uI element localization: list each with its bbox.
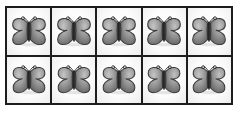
grid-row (7, 55, 231, 104)
butterfly-icon (146, 14, 182, 48)
grid-cell-r1c1 (7, 8, 50, 55)
butterfly-icon (56, 14, 92, 48)
grid-cell-r2c3 (95, 57, 140, 104)
butterfly-icon (101, 14, 137, 48)
butterfly-grid-figure (0, 0, 243, 115)
grid-cell-r2c1 (7, 57, 50, 104)
grid-cell-r2c2 (50, 57, 95, 104)
butterfly-icon (101, 63, 137, 96)
grid-cell-r1c4 (141, 8, 186, 55)
grid-frame (5, 6, 233, 105)
grid-cell-r2c5 (186, 57, 231, 104)
butterfly-icon (191, 63, 227, 96)
butterfly-icon (191, 14, 227, 48)
grid-cell-r1c2 (50, 8, 95, 55)
butterfly-icon (56, 63, 92, 96)
grid-cell-r2c4 (141, 57, 186, 104)
grid-cell-r1c5 (186, 8, 231, 55)
butterfly-icon (11, 14, 47, 48)
butterfly-icon (146, 63, 182, 96)
butterfly-icon (11, 63, 47, 96)
grid-cell-r1c3 (95, 8, 140, 55)
grid-row (7, 8, 231, 55)
